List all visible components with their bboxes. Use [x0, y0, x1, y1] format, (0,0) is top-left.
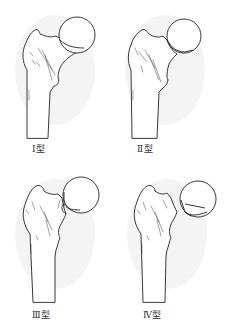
femur-type-2-drawing — [115, 0, 230, 164]
panel-label: Ⅰ型 — [32, 142, 46, 155]
panel-type-3: Ⅲ型 — [0, 164, 115, 328]
femoral-head — [180, 181, 216, 217]
panel-label: Ⅲ型 — [32, 308, 51, 321]
femur-type-1-drawing — [0, 0, 115, 164]
femur-type-3-drawing — [0, 164, 115, 328]
panel-type-4: Ⅳ型 — [115, 164, 230, 328]
femur-type-4-drawing — [115, 164, 230, 328]
panel-label: Ⅳ型 — [143, 308, 162, 321]
femoral-head — [167, 19, 201, 53]
panel-type-1: Ⅰ型 — [0, 0, 115, 164]
panel-label: Ⅱ型 — [137, 142, 153, 155]
panel-type-2: Ⅱ型 — [115, 0, 230, 164]
